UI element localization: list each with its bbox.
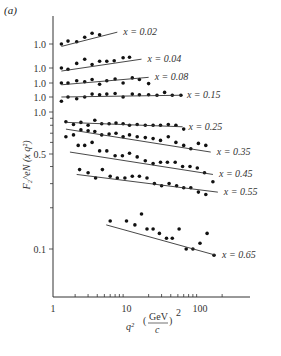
data-point	[98, 93, 102, 97]
data-point	[90, 63, 94, 67]
x-tick-label: 100	[193, 303, 208, 314]
data-point	[75, 79, 79, 83]
data-point	[198, 242, 202, 246]
data-point	[205, 232, 209, 236]
data-point	[188, 165, 192, 169]
data-point	[159, 139, 163, 143]
data-point	[114, 131, 118, 135]
data-point	[151, 137, 155, 141]
data-point	[173, 160, 177, 164]
data-point	[177, 227, 181, 231]
data-point	[72, 133, 76, 137]
x-unit-num: GeV	[149, 311, 169, 322]
data-point	[123, 176, 127, 180]
series-label: x = 0.35	[216, 146, 251, 157]
data-point	[145, 227, 149, 231]
data-point	[93, 130, 97, 134]
data-point	[113, 92, 117, 96]
data-point	[75, 62, 79, 66]
fit-line	[61, 95, 181, 97]
data-point	[163, 91, 167, 95]
data-point	[64, 120, 68, 124]
data-point	[105, 60, 109, 64]
data-point	[83, 57, 87, 61]
data-point	[174, 141, 178, 145]
data-point	[196, 166, 200, 170]
x-axis-label: q²	[126, 321, 135, 332]
data-point	[60, 66, 64, 70]
data-point	[90, 31, 94, 35]
data-point	[151, 227, 155, 231]
data-point	[112, 59, 116, 63]
series-label: x = 0.65	[221, 249, 256, 260]
series-label: x = 0.55	[223, 186, 258, 197]
x-unit-exp: 2	[176, 307, 181, 318]
fit-line	[70, 152, 213, 174]
y-tick-label: 0.5	[34, 149, 47, 160]
data-point	[125, 219, 129, 223]
data-point	[133, 223, 137, 227]
x-tick-label: 1	[51, 303, 56, 314]
data-point	[86, 171, 90, 175]
data-point	[128, 124, 132, 128]
data-point	[101, 168, 105, 172]
data-point	[144, 136, 148, 140]
series-label: x = 0.45	[218, 168, 253, 179]
fit-line	[61, 59, 141, 71]
data-point	[86, 129, 90, 133]
series-label: x = 0.08	[154, 71, 189, 82]
data-point	[76, 144, 80, 148]
chart: 110100q²(GeVc)2F₂^eN (x q²)1.01.01.01.01…	[0, 0, 281, 356]
data-point	[147, 82, 151, 86]
data-point	[181, 165, 185, 169]
data-point	[135, 135, 139, 139]
data-point	[90, 141, 94, 145]
data-point	[86, 124, 90, 128]
data-point	[79, 121, 83, 125]
data-point	[131, 174, 135, 178]
data-point	[105, 92, 109, 96]
data-point	[204, 144, 208, 148]
data-point	[90, 92, 94, 96]
data-point	[83, 144, 87, 148]
data-point	[211, 180, 215, 184]
data-point	[167, 135, 171, 139]
data-point	[171, 236, 175, 240]
data-point	[78, 168, 82, 172]
series-label: x = 0.04	[147, 53, 182, 64]
series-label: x = 0.25	[188, 121, 223, 132]
data-point	[98, 82, 102, 86]
data-point	[121, 56, 125, 60]
data-point	[159, 160, 163, 164]
data-point	[83, 36, 87, 40]
data-point	[121, 154, 125, 158]
data-point	[60, 100, 64, 104]
data-point	[158, 232, 162, 236]
data-point	[105, 149, 109, 153]
fit-line	[106, 225, 216, 255]
x-unit-den: c	[155, 324, 160, 335]
data-point	[90, 78, 94, 82]
y-tick-label: 1.0	[34, 107, 47, 118]
data-point	[72, 123, 76, 127]
series-label: x = 0.15	[186, 89, 221, 100]
data-point	[60, 42, 64, 46]
series-label: x = 0.02	[122, 26, 157, 37]
data-point	[135, 155, 139, 159]
y-tick-label: 0.1	[34, 244, 47, 255]
data-point	[128, 151, 132, 155]
y-axis-label: F₂^eN (x q²)	[21, 140, 33, 191]
data-point	[197, 142, 201, 146]
data-point	[131, 92, 135, 96]
data-point	[138, 174, 142, 178]
data-point	[64, 135, 68, 139]
x-unit-paren-open: (	[143, 315, 147, 327]
data-point	[121, 122, 125, 126]
fit-line	[61, 77, 148, 84]
data-point	[98, 60, 102, 64]
y-tick-label: 1.0	[34, 92, 47, 103]
y-tick-label: 1.0	[34, 63, 47, 74]
data-point	[159, 124, 163, 128]
y-tick-label: 1.0	[34, 78, 47, 89]
data-point	[135, 123, 139, 127]
